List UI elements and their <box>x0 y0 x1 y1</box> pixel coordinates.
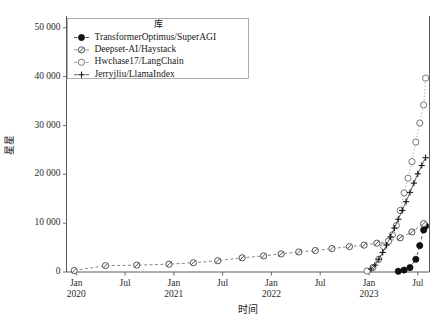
data-point-marker <box>413 139 419 145</box>
x-tick-year-label: 2022 <box>262 289 281 299</box>
y-axis-title: 星星 <box>4 135 15 155</box>
legend-title: 库 <box>154 18 163 29</box>
series-line <box>74 224 423 271</box>
data-point-marker <box>421 102 427 108</box>
y-tick-label: 10 000 <box>34 217 60 227</box>
legend-entry-1[interactable]: TransformerOptimus/SuperAGI <box>74 32 216 42</box>
data-point-marker <box>395 268 401 274</box>
chart-container: 010 00020 00030 00040 00050 000Jan2020Ju… <box>0 0 443 320</box>
x-tick-label: Jul <box>120 278 131 288</box>
data-point-marker <box>401 190 407 196</box>
x-tick-label: Jan <box>168 278 181 288</box>
stars-over-time-line-chart: 010 00020 00030 00040 00050 000Jan2020Ju… <box>0 0 443 320</box>
y-tick-label: 0 <box>56 266 61 276</box>
x-tick-year-label: 2020 <box>67 289 86 299</box>
data-point-marker <box>401 267 407 273</box>
x-tick-label: Jan <box>363 278 376 288</box>
data-point-marker <box>417 243 423 249</box>
data-point-marker <box>413 256 419 262</box>
data-point-marker <box>407 265 413 271</box>
data-point-marker <box>409 159 415 165</box>
y-tick-label: 20 000 <box>34 168 60 178</box>
data-point-marker <box>78 59 84 65</box>
x-tick-label: Jan <box>70 278 83 288</box>
legend-entry-label: Deepset-AI/Haystack <box>95 44 177 54</box>
y-tick-label: 40 000 <box>34 71 60 81</box>
legend-entry-label: TransformerOptimus/SuperAGI <box>95 32 217 42</box>
data-point-marker <box>417 120 423 126</box>
x-tick-year-label: 2023 <box>360 289 379 299</box>
x-axis-title: 时间 <box>238 303 258 315</box>
x-tick-year-label: 2021 <box>164 289 183 299</box>
series-layer <box>71 75 428 274</box>
legend-entry-label: Hwchase17/LangChain <box>95 56 184 66</box>
legend-layer[interactable]: 库TransformerOptimus/SuperAGIDeepset-AI/H… <box>68 18 249 79</box>
data-point-marker <box>78 34 84 40</box>
y-tick-label: 30 000 <box>34 120 60 130</box>
data-point-marker <box>422 75 428 81</box>
data-point-marker <box>405 175 411 181</box>
x-tick-label: Jul <box>217 278 228 288</box>
y-tick-label: 50 000 <box>34 22 60 32</box>
x-tick-label: Jul <box>412 278 423 288</box>
legend-entry-label: Jerryjliu/LlamaIndex <box>95 69 175 79</box>
x-tick-label: Jul <box>315 278 326 288</box>
x-tick-label: Jan <box>265 278 278 288</box>
